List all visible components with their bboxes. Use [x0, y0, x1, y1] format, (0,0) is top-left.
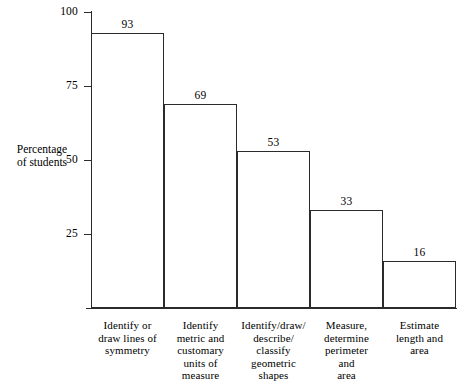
- x-axis-category-label-line: perimeter: [306, 344, 387, 357]
- bar-value-label: 69: [164, 89, 237, 101]
- y-axis-tick-label: 25: [46, 228, 78, 240]
- x-axis-category-label-line: measure: [160, 369, 241, 382]
- x-axis-category-label-line: classify: [233, 344, 314, 357]
- bar-value-label: 16: [383, 246, 456, 258]
- bar: [310, 210, 383, 308]
- bar-value-label: 53: [237, 136, 310, 148]
- x-axis-category-label: Identify/draw/describe/classifygeometric…: [233, 319, 314, 382]
- x-axis-category-label-line: draw lines of: [87, 332, 168, 345]
- x-axis-category-label: Measure,determineperimeterandarea: [306, 319, 387, 382]
- bar: [383, 261, 456, 308]
- y-axis-tick-label: 100: [46, 6, 78, 18]
- x-axis-category-label-line: metric and: [160, 332, 241, 345]
- bar: [91, 33, 164, 308]
- x-axis-category-label-line: area: [306, 369, 387, 382]
- x-axis-category-label-line: Identify or: [87, 319, 168, 332]
- x-axis-category-label-line: and: [306, 357, 387, 370]
- x-axis-category-label-line: geometric: [233, 357, 314, 370]
- x-axis-category-labels: Identify ordraw lines ofsymmetryIdentify…: [91, 319, 456, 381]
- x-axis-category-label: Estimatelength andarea: [379, 319, 460, 357]
- x-axis-category-label-line: shapes: [233, 369, 314, 382]
- x-axis-category-label: Identify ordraw lines ofsymmetry: [87, 319, 168, 357]
- x-axis-category-label-line: Identify/draw/: [233, 319, 314, 332]
- bar-value-label: 33: [310, 195, 383, 207]
- x-axis-category-label-line: Measure,: [306, 319, 387, 332]
- bar: [237, 151, 310, 308]
- bars-group: 9369533316: [91, 12, 456, 308]
- x-axis-category-label-line: Identify: [160, 319, 241, 332]
- bar-value-label: 93: [91, 18, 164, 30]
- x-axis-category-label-line: area: [379, 344, 460, 357]
- x-axis-category-label-line: length and: [379, 332, 460, 345]
- y-axis-tick-label: 75: [46, 80, 78, 92]
- bar-chart: Percentage of students 255075100 9369533…: [0, 0, 467, 384]
- x-axis-category-label-line: units of: [160, 357, 241, 370]
- x-axis-category-label-line: customary: [160, 344, 241, 357]
- x-axis-category-label: Identifymetric andcustomaryunits ofmeasu…: [160, 319, 241, 382]
- x-axis-category-label-line: determine: [306, 332, 387, 345]
- x-axis-line: [86, 308, 457, 309]
- y-axis-tick-label: 50: [46, 154, 78, 166]
- x-axis-category-label-line: Estimate: [379, 319, 460, 332]
- bar: [164, 104, 237, 308]
- x-axis-category-label-line: symmetry: [87, 344, 168, 357]
- x-axis-category-label-line: describe/: [233, 332, 314, 345]
